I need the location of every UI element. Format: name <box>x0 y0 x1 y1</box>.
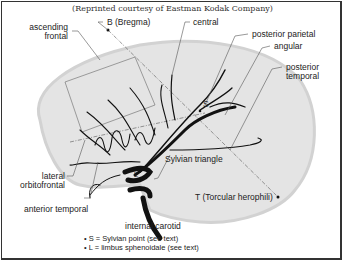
label-lateral-orbitofrontal: lateral orbitofrontal <box>5 172 65 190</box>
brain-silhouette <box>38 41 314 222</box>
note-limbus: L = limbus sphenoidale (see text) <box>84 243 199 252</box>
label-torcular: T (Torcular herophili) <box>195 193 273 202</box>
label-line: orbitofrontal <box>5 181 65 190</box>
label-line: temporal <box>286 72 319 81</box>
legend-notes: S = Sylvian point (see text) L = limbus … <box>84 234 199 252</box>
label-bregma: B (Bregma) <box>107 18 150 27</box>
label-angular: angular <box>274 42 302 51</box>
torcular-point <box>277 196 280 199</box>
label-anterior-temporal: anterior temporal <box>24 205 88 214</box>
label-sylvian-point-marker: S <box>203 100 209 109</box>
figure-caption: (Reprinted courtesy of Eastman Kodak Com… <box>0 4 345 13</box>
label-sylvian-triangle: Sylvian triangle <box>165 155 223 164</box>
label-posterior-parietal: posterior parietal <box>252 30 315 39</box>
label-ascending-frontal: ascending frontal <box>20 23 68 41</box>
label-posterior-temporal: posterior temporal <box>286 63 319 81</box>
label-limbus-marker: L <box>134 170 138 179</box>
label-internal-carotid: internal carotid <box>125 222 181 231</box>
label-central: central <box>193 18 219 27</box>
label-line: frontal <box>20 32 68 41</box>
note-sylvian-point: S = Sylvian point (see text) <box>84 234 199 243</box>
